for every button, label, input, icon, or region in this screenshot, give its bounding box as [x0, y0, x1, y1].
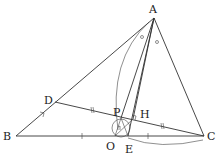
- label-d: D: [44, 94, 53, 107]
- geometry-diagram: A B C D O E P H: [0, 0, 222, 158]
- angle-mark-1: [141, 36, 144, 39]
- label-a: A: [148, 3, 158, 16]
- label-o: O: [106, 140, 115, 153]
- label-e: E: [125, 143, 133, 156]
- segment-ap: [121, 18, 154, 118]
- double-tick-hc: [161, 123, 164, 129]
- label-h: H: [140, 108, 150, 121]
- arrow-mark-op: [118, 126, 120, 130]
- segment-ac: [154, 18, 204, 136]
- label-c: C: [207, 130, 215, 143]
- small-circle-o: [112, 119, 130, 137]
- arc-ec: [128, 138, 203, 145]
- double-tick-dp: [91, 107, 94, 113]
- label-b: B: [3, 130, 11, 143]
- angle-mark-2: [156, 41, 159, 44]
- label-p: P: [113, 106, 121, 119]
